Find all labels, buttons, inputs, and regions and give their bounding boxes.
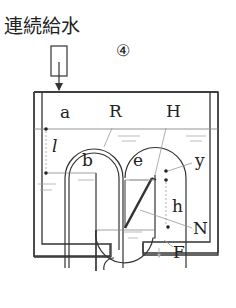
label-h: h <box>172 196 183 216</box>
siphon-tube-R <box>65 149 123 271</box>
figure-number: ④ <box>116 41 130 60</box>
tilted-plate-N <box>125 178 156 228</box>
label-R: R <box>109 101 123 121</box>
dimension-h <box>157 169 170 258</box>
supply-arrow-icon <box>55 83 63 91</box>
label-y: y <box>194 150 205 170</box>
label-e: e <box>133 150 143 170</box>
water-hatching <box>38 136 206 238</box>
label-b: b <box>82 150 93 170</box>
continuous-water-supply-title: 連続給水 <box>4 15 80 37</box>
siphon-apparatus-diagram: 連続給水 ④ <box>0 0 236 308</box>
label-N: N <box>193 218 208 238</box>
label-H: H <box>166 101 181 121</box>
label-l: l <box>52 136 57 156</box>
label-a: a <box>60 102 70 122</box>
label-F: F <box>173 242 185 262</box>
